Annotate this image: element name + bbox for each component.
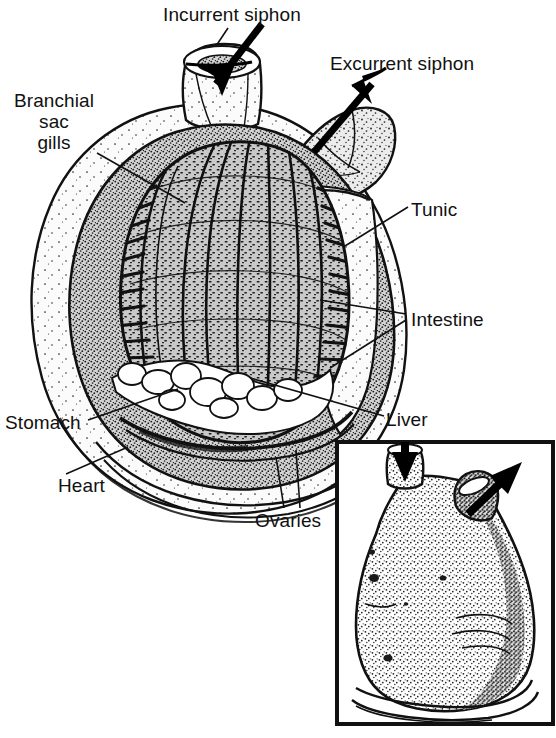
anatomy-figure: Incurrent siphon Excurrent siphon Branch…: [0, 0, 556, 738]
label-ovaries: Ovaries: [255, 510, 321, 531]
external-view-inset: [337, 440, 553, 724]
label-incurrent-siphon: Incurrent siphon: [163, 4, 301, 25]
label-branchial-sac-gills: Branchial sac gills: [8, 90, 100, 153]
label-liver: Liver: [386, 409, 428, 430]
label-tunic: Tunic: [411, 199, 457, 220]
label-excurrent-siphon: Excurrent siphon: [330, 53, 474, 74]
label-stomach: Stomach: [5, 412, 81, 433]
label-intestine: Intestine: [411, 309, 484, 330]
label-heart: Heart: [58, 475, 105, 496]
